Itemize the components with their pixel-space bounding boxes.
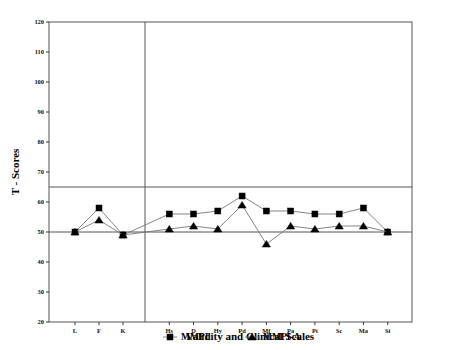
data-point-marker-square	[360, 205, 366, 211]
y-tick-label: 60	[38, 198, 44, 205]
y-tick-label: 100	[34, 78, 44, 85]
series-mmpi-a	[71, 201, 392, 247]
data-point-marker-triangle	[189, 222, 197, 229]
data-point-marker-square	[96, 205, 102, 211]
x-tick-label-hs: Hs	[166, 327, 174, 334]
legend-label-mmpi-a: MMPI-A	[263, 332, 301, 342]
data-point-marker-square	[288, 208, 294, 214]
x-tick-label-f: F	[97, 327, 101, 334]
y-tick-label: 120	[34, 18, 44, 25]
y-tick-label: 50	[38, 228, 44, 235]
data-point-marker-triangle	[286, 222, 294, 229]
y-tick-label: 80	[38, 138, 44, 145]
y-tick-label: 90	[38, 108, 44, 115]
mmpi-profile-chart: 2030405060708090100110120 LFKHsDHyPdMfPa…	[0, 0, 454, 350]
data-point-marker-square	[191, 211, 197, 217]
y-tick-label: 30	[38, 288, 44, 295]
y-tick-label: 40	[38, 258, 44, 265]
data-point-marker-square	[215, 208, 221, 214]
data-point-marker-triangle	[95, 216, 103, 223]
x-tick-label-ma: Ma	[359, 327, 369, 334]
x-tick-label-si: Si	[385, 327, 391, 334]
y-axis-title: T - Scores	[9, 148, 21, 195]
legend-label-mmpi: MMPI	[181, 332, 209, 342]
plot-frame	[49, 22, 412, 322]
x-tick-label-l: L	[73, 327, 77, 334]
data-point-marker-square	[312, 211, 318, 217]
x-tick-label-sc: Sc	[336, 327, 343, 334]
data-point-marker-square	[166, 211, 172, 217]
data-point-marker-square	[239, 193, 245, 199]
data-point-marker-square	[167, 334, 173, 340]
chart-plot-area: 2030405060708090100110120 LFKHsDHyPdMfPa…	[0, 0, 454, 350]
y-tick-label: 70	[38, 168, 44, 175]
data-point-marker-square	[263, 208, 269, 214]
data-point-marker-square	[336, 211, 342, 217]
y-tick-label: 110	[35, 48, 44, 55]
data-point-marker-triangle	[238, 201, 246, 208]
y-axis-ticks: 2030405060708090100110120	[34, 18, 49, 325]
x-tick-label-k: K	[121, 327, 126, 334]
data-series-group	[71, 193, 392, 247]
y-tick-label: 20	[38, 318, 44, 325]
